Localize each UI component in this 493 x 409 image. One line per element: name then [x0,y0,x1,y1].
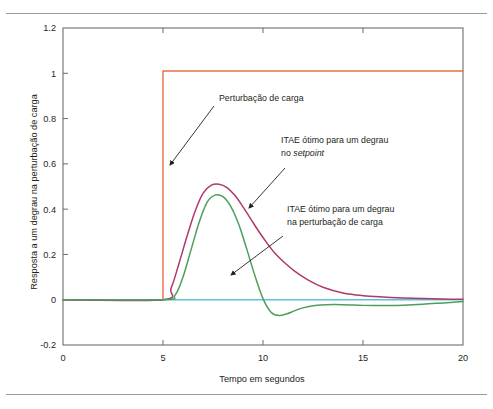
x-tick-label: 15 [358,353,368,363]
annotation-arrow [249,168,285,208]
annot-itae-perturbacao: ITAE ótimo para um degrauna perturbação … [231,204,395,275]
annotation-text: na perturbação de carga [287,217,383,227]
annotation-layer: Perturbação de cargaITAE ótimo para um d… [170,93,395,275]
x-tick-label: 0 [60,353,65,363]
x-tick-label: 20 [458,353,468,363]
series-line [63,71,463,300]
y-tick-label: 0.4 [43,205,56,215]
y-tick-label: 1.2 [43,23,56,33]
y-tick-label: 1 [51,69,56,79]
annotation-text: ITAE ótimo para um degrau [281,135,389,145]
series-layer [63,71,463,316]
annotation-arrow [231,236,283,275]
annotation-text: ITAE ótimo para um degrau [287,204,395,214]
y-tick-label: 0.6 [43,159,56,169]
x-tick-label: 5 [160,353,165,363]
chart-svg: 05101520 -0.200.20.40.60.811.2 Perturbaç… [0,0,493,409]
y-tick-label: 0.8 [43,114,56,124]
figure-container: 05101520 -0.200.20.40.60.811.2 Perturbaç… [0,0,493,409]
y-axis-tick-labels: -0.200.20.40.60.811.2 [40,23,56,350]
series-line [63,184,463,301]
x-axis-tick-labels: 05101520 [60,353,468,363]
annotation-text: Perturbação de carga [219,93,304,103]
annot-itae-setpoint: ITAE ótimo para um degrauno setpoint [249,135,389,208]
annotation-text: no setpoint [281,148,325,158]
x-axis-title: Tempo em segundos [219,374,305,384]
annotation-arrow [170,106,214,165]
y-axis-ticks [63,73,68,299]
y-tick-label: 0 [51,295,56,305]
y-tick-label: -0.2 [40,340,56,350]
y-axis-title: Resposta a um degrau na perturbação de c… [29,93,39,290]
x-tick-label: 10 [258,353,268,363]
y-tick-label: 0.2 [43,250,56,260]
